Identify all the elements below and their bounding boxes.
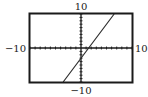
ymin-label: −10 — [70, 85, 91, 96]
ymax-label: 10 — [75, 1, 88, 12]
xmin-label: −10 — [5, 43, 26, 54]
xmax-label: 10 — [135, 43, 148, 54]
graph-window: 10 −10 −10 10 — [0, 0, 148, 97]
